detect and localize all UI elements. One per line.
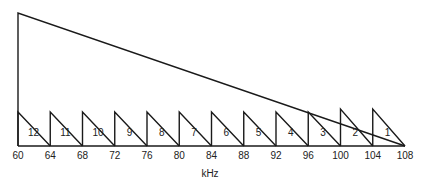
channel-label: 12: [28, 127, 40, 138]
channel-label: 7: [191, 127, 197, 138]
channel-label: 6: [224, 127, 230, 138]
tick-label: 96: [303, 150, 315, 161]
tick-label: 84: [206, 150, 218, 161]
tick-label: 80: [174, 150, 186, 161]
tick-label: 108: [397, 150, 414, 161]
tick-label: 60: [12, 150, 24, 161]
tick-label: 76: [141, 150, 153, 161]
channel-label: 2: [353, 127, 359, 138]
tick-label: 104: [364, 150, 381, 161]
channel-label: 10: [93, 127, 105, 138]
tick-label: 68: [77, 150, 89, 161]
axis-tick-labels: 60646872768084889296100104108: [12, 150, 413, 161]
axis-unit-label: kHz: [201, 168, 218, 179]
channel-label: 5: [256, 127, 262, 138]
tick-label: 100: [332, 150, 349, 161]
channel-label: 3: [320, 127, 326, 138]
tick-label: 88: [238, 150, 250, 161]
channel-label: 9: [127, 127, 133, 138]
channel-label: 1: [385, 127, 391, 138]
tick-label: 64: [45, 150, 57, 161]
tick-label: 72: [109, 150, 121, 161]
channel-triangles: 121110987654321: [18, 109, 405, 146]
frequency-diagram: 121110987654321 606468727680848892961001…: [0, 0, 431, 186]
channel-label: 11: [60, 127, 71, 138]
channel-label: 4: [288, 127, 294, 138]
tick-label: 92: [270, 150, 282, 161]
channel-label: 8: [159, 127, 165, 138]
